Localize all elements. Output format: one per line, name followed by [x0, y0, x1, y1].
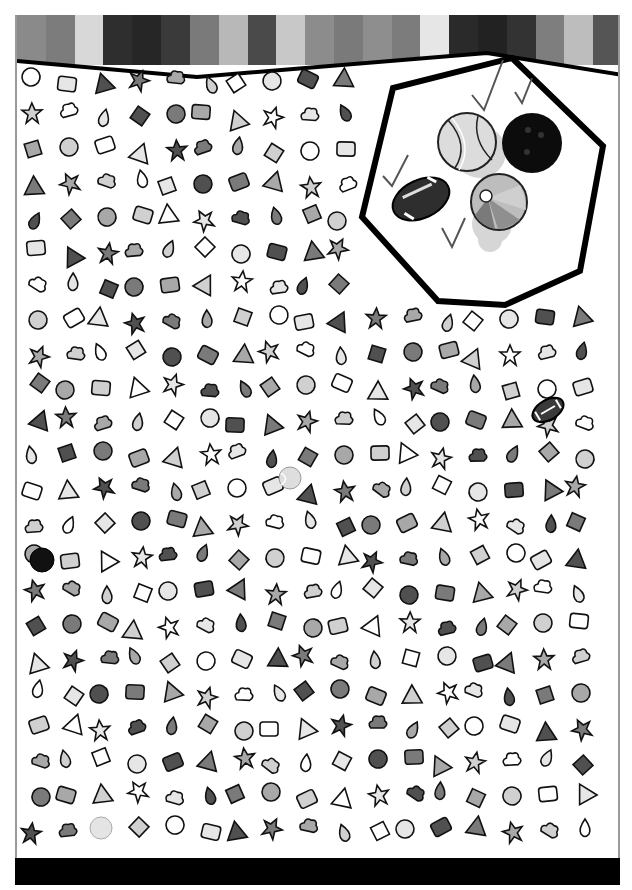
sun-face-icon[interactable] — [27, 309, 49, 331]
boot-icon[interactable] — [194, 614, 216, 636]
cloud-icon[interactable] — [262, 106, 284, 128]
wheel-icon[interactable] — [93, 476, 115, 498]
paint-palette-icon[interactable] — [123, 645, 145, 667]
ice-cream-icon[interactable] — [54, 379, 76, 401]
flower-icon[interactable] — [302, 617, 324, 639]
number-2-icon[interactable] — [198, 749, 220, 771]
money-bag-icon[interactable] — [234, 378, 256, 400]
hot-dog-icon[interactable] — [369, 820, 391, 842]
shopping-bag-icon[interactable] — [232, 684, 254, 706]
daisy-icon[interactable] — [429, 780, 451, 802]
orange-icon[interactable] — [463, 346, 485, 368]
backpack-icon[interactable] — [259, 754, 281, 776]
lipstick-icon[interactable] — [191, 137, 213, 159]
envelope-icon[interactable] — [194, 236, 216, 258]
croissant-icon[interactable] — [264, 547, 286, 569]
shopping-bag-icon[interactable] — [366, 343, 388, 365]
gingerbread-man-icon[interactable] — [94, 134, 116, 156]
glasses-icon[interactable] — [400, 647, 422, 669]
shopping-cart-icon[interactable] — [199, 785, 221, 807]
jar-icon[interactable] — [568, 610, 590, 632]
paintbrush-icon[interactable] — [366, 712, 388, 734]
hidden-tennis-ball[interactable] — [277, 465, 303, 491]
gear-icon[interactable] — [200, 821, 222, 843]
hot-dog-icon[interactable] — [503, 479, 525, 501]
doll-icon[interactable] — [467, 481, 489, 503]
badminton-shuttle-icon[interactable] — [365, 685, 387, 707]
telephone-icon[interactable] — [29, 372, 51, 394]
wrench-icon[interactable] — [159, 274, 181, 296]
sneaker-icon[interactable] — [463, 715, 485, 737]
daisy-icon[interactable] — [130, 141, 152, 163]
hot-dog-icon[interactable] — [59, 172, 81, 194]
globe-icon[interactable] — [92, 71, 114, 93]
molecule-icon[interactable] — [57, 100, 79, 122]
t-shirt-icon[interactable] — [496, 614, 518, 636]
airplane-icon[interactable] — [328, 651, 350, 673]
teacup-icon[interactable] — [21, 102, 43, 124]
hat-icon[interactable] — [22, 516, 44, 538]
cloud-icon[interactable] — [572, 754, 594, 776]
paintbrush-icon[interactable] — [500, 380, 522, 402]
drink-icon[interactable] — [430, 816, 452, 838]
bell-icon[interactable] — [332, 786, 354, 808]
high-heel-icon[interactable] — [21, 480, 43, 502]
movie-camera-icon[interactable] — [226, 477, 248, 499]
horseshoe-icon[interactable] — [569, 646, 591, 668]
ship-icon[interactable] — [122, 618, 144, 640]
pencil-cup-icon[interactable] — [433, 546, 455, 568]
ribbon-icon[interactable] — [233, 720, 255, 742]
chair-icon[interactable] — [538, 819, 560, 841]
briefcase-icon[interactable] — [540, 513, 562, 535]
doll-icon[interactable] — [23, 174, 45, 196]
watering-can-icon[interactable] — [533, 648, 555, 670]
spatula-icon[interactable] — [91, 782, 113, 804]
envelope-icon[interactable] — [60, 577, 82, 599]
speech-bubble-icon[interactable] — [505, 542, 527, 564]
weight-kg-icon[interactable] — [260, 781, 282, 803]
clock-icon[interactable] — [300, 545, 322, 567]
watering-can-icon[interactable] — [89, 341, 111, 363]
high-heel-icon[interactable] — [465, 787, 487, 809]
cross-icon[interactable] — [127, 411, 149, 433]
ice-cream-icon[interactable] — [498, 686, 520, 708]
teacup-icon[interactable] — [465, 409, 487, 431]
mouse-icon[interactable] — [28, 345, 50, 367]
bicycle-icon[interactable] — [497, 650, 519, 672]
id-card-icon[interactable] — [500, 749, 522, 771]
cake-slice-icon[interactable] — [299, 509, 321, 531]
tree-icon[interactable] — [368, 784, 390, 806]
mouse-icon[interactable] — [472, 652, 494, 674]
daisy-icon[interactable] — [293, 680, 315, 702]
candle-icon[interactable] — [198, 380, 220, 402]
blood-drop-icon[interactable] — [567, 583, 589, 605]
umbrella-icon[interactable] — [58, 514, 80, 536]
palette-icon[interactable] — [265, 205, 287, 227]
drink-icon[interactable] — [131, 168, 153, 190]
magnifier-icon[interactable] — [361, 550, 383, 572]
hammer-icon[interactable] — [329, 309, 351, 331]
small-house-icon[interactable] — [330, 345, 352, 367]
house-icon[interactable] — [506, 578, 528, 600]
hand-pointing-icon[interactable] — [97, 242, 119, 264]
sneaker-icon[interactable] — [164, 67, 186, 89]
ice-cream-cone-icon[interactable] — [162, 751, 184, 773]
candle-icon[interactable] — [292, 275, 314, 297]
apple-icon[interactable] — [98, 647, 120, 669]
barrel-icon[interactable] — [432, 510, 454, 532]
school-building-icon[interactable] — [93, 107, 115, 129]
bandage-icon[interactable] — [165, 103, 187, 125]
drink-icon[interactable] — [564, 475, 586, 497]
rocket-icon[interactable] — [161, 715, 183, 737]
padlock-icon[interactable] — [161, 346, 183, 368]
tape-dispenser-icon[interactable] — [428, 753, 450, 775]
spatula-icon[interactable] — [225, 441, 247, 463]
scroll-icon[interactable] — [402, 341, 424, 363]
marker-icon[interactable] — [125, 717, 147, 739]
lipstick-icon[interactable] — [57, 478, 79, 500]
spatula-icon[interactable] — [233, 342, 255, 364]
recycle-arrows-icon[interactable] — [336, 543, 358, 565]
jam-jar-icon[interactable] — [230, 243, 252, 265]
spoon-icon[interactable] — [124, 681, 146, 703]
vase-icon[interactable] — [28, 714, 50, 736]
